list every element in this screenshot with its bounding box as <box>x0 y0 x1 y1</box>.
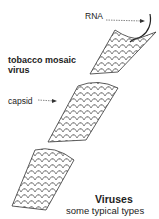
caption-title: Viruses <box>95 193 133 205</box>
capsid-arrow <box>38 99 57 103</box>
capsid-segment-top <box>90 30 156 74</box>
virus-illustration <box>0 0 159 219</box>
capsid-segment-bottom <box>12 149 74 210</box>
capsid-label: capsid <box>8 96 33 106</box>
rna-arrow <box>106 19 145 23</box>
capsid-segment-middle <box>48 82 118 142</box>
rna-label: RNA <box>85 11 103 21</box>
virus-name-label: tobacco mosaic virus <box>8 55 78 75</box>
caption-subtitle: some typical types <box>66 205 144 216</box>
